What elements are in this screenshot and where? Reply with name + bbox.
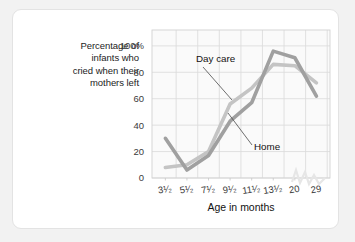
x-axis-tick-label: 7¹⁄₂ <box>200 182 216 195</box>
y-axis-tick-label: 100% <box>120 40 145 51</box>
x-axis-tick-label: 5¹⁄₂ <box>179 182 195 195</box>
y-axis-tick-label: 40 <box>133 120 144 131</box>
x-axis-tick-label: 20 <box>288 183 300 196</box>
y-axis-tick-label: 60 <box>133 93 144 104</box>
x-axis-tick-label: 11¹⁄₂ <box>241 182 261 196</box>
x-axis-title: Age in months <box>207 201 274 213</box>
y-axis-tick-label: 0 <box>139 172 144 183</box>
series-label-day-care: Day care <box>196 53 236 64</box>
chart-plot-area: 020406080100%3¹⁄₂5¹⁄₂7¹⁄₂9¹⁄₂11¹⁄₂13¹⁄₂2… <box>0 0 355 242</box>
y-axis-tick-label: 80 <box>133 67 144 78</box>
x-axis-tick-label: 29 <box>310 183 322 196</box>
series-label-home: Home <box>254 141 281 152</box>
x-axis-tick-label: 9¹⁄₂ <box>222 182 238 195</box>
x-axis-tick-label: 3¹⁄₂ <box>157 182 173 195</box>
y-axis-tick-label: 20 <box>133 146 144 157</box>
line-chart: 020406080100%3¹⁄₂5¹⁄₂7¹⁄₂9¹⁄₂11¹⁄₂13¹⁄₂2… <box>0 0 355 242</box>
x-axis-tick-label: 13¹⁄₂ <box>262 182 283 196</box>
